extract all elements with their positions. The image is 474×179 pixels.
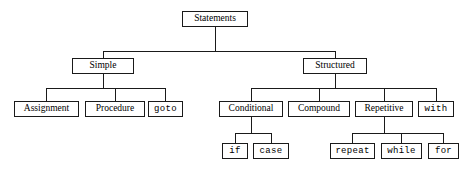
node-repetitive[interactable]: Repetitive xyxy=(355,101,413,117)
node-for-label: for xyxy=(435,146,452,155)
node-compound-label: Compound xyxy=(298,104,340,114)
node-goto[interactable]: goto xyxy=(148,101,183,117)
node-if[interactable]: if xyxy=(222,143,248,159)
node-case-label: case xyxy=(260,146,283,155)
node-procedure[interactable]: Procedure xyxy=(85,101,145,117)
node-with-label: with xyxy=(425,104,448,113)
node-case[interactable]: case xyxy=(253,143,289,159)
node-structured-label: Structured xyxy=(315,61,355,70)
node-assignment[interactable]: Assignment xyxy=(14,101,79,117)
node-while[interactable]: while xyxy=(381,143,422,159)
node-simple-label: Simple xyxy=(90,61,117,70)
node-goto-label: goto xyxy=(154,104,177,113)
node-statements[interactable]: Statements xyxy=(182,11,248,27)
node-simple[interactable]: Simple xyxy=(72,58,134,74)
node-compound[interactable]: Compound xyxy=(288,101,350,117)
statement-tree-diagram: Statements Simple Structured Assignment … xyxy=(0,0,474,179)
node-repetitive-label: Repetitive xyxy=(364,104,403,114)
node-repeat[interactable]: repeat xyxy=(330,143,375,159)
node-with[interactable]: with xyxy=(418,101,454,117)
node-structured[interactable]: Structured xyxy=(303,58,367,74)
node-if-label: if xyxy=(229,146,240,155)
node-conditional[interactable]: Conditional xyxy=(219,101,283,117)
node-statements-label: Statements xyxy=(194,14,236,24)
node-while-label: while xyxy=(387,146,416,155)
node-assignment-label: Assignment xyxy=(24,104,69,114)
node-conditional-label: Conditional xyxy=(229,104,274,114)
node-procedure-label: Procedure xyxy=(96,104,135,114)
node-repeat-label: repeat xyxy=(335,146,369,155)
node-for[interactable]: for xyxy=(428,143,459,159)
